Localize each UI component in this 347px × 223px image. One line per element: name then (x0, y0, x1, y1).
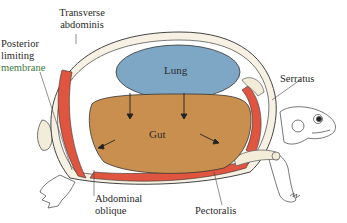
abdominal-oblique-label: Abdominal oblique (95, 193, 142, 217)
serratus-label: Serratus (280, 73, 314, 85)
label-line: membrane (1, 62, 45, 74)
head (280, 107, 336, 144)
gut (89, 94, 251, 173)
label-line: oblique (95, 205, 142, 217)
turtle-diagram (0, 0, 347, 223)
posterior-limiting-membrane-label: Posterior limiting membrane (1, 38, 45, 74)
pectoralis-label: Pectoralis (195, 205, 236, 217)
label-line: Transverse (56, 7, 108, 19)
label-line: Abdominal (95, 193, 142, 205)
label-line: limiting (1, 50, 45, 62)
label-line: Posterior (1, 38, 45, 50)
gut-label: Gut (149, 128, 166, 140)
lung-label: Lung (164, 64, 187, 76)
label-line: abdominis (56, 19, 108, 31)
transverse-abdominis-label: Transverse abdominis (56, 7, 108, 31)
